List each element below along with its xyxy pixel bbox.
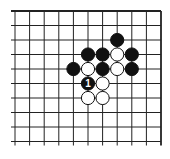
white-stone <box>96 91 109 104</box>
white-stone <box>111 62 124 75</box>
black-stone <box>81 48 94 61</box>
black-stone <box>111 33 124 46</box>
black-stone <box>96 48 109 61</box>
black-stone <box>67 62 80 75</box>
white-stone <box>96 77 109 90</box>
white-stone <box>111 48 124 61</box>
black-stone <box>125 62 138 75</box>
go-board: 1 <box>0 0 170 159</box>
move-number-label: 1 <box>85 78 91 89</box>
white-stone <box>81 62 94 75</box>
black-stone <box>125 48 138 61</box>
white-stone <box>81 91 94 104</box>
black-stone <box>96 62 109 75</box>
